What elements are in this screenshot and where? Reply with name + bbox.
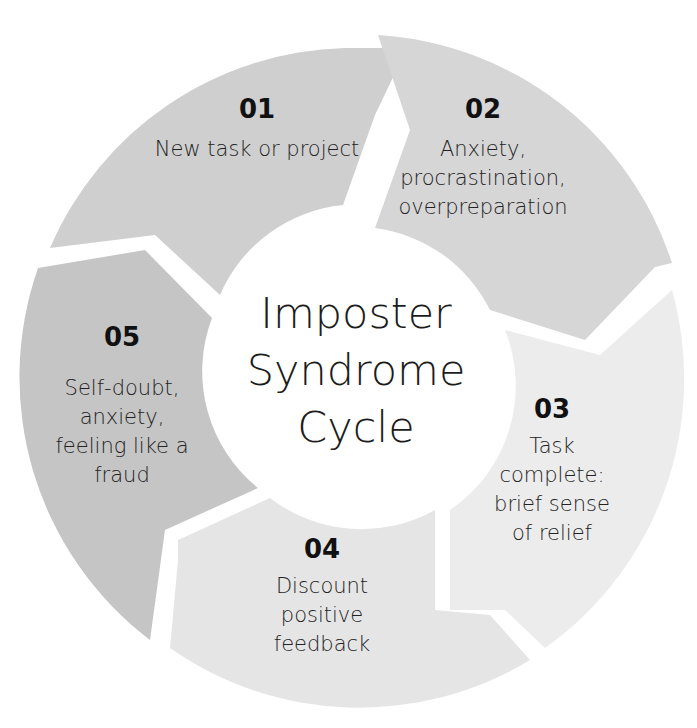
step-number: 02 <box>398 94 567 124</box>
step-01: 01 New task or project <box>155 94 359 164</box>
step-05: 05 Self-doubt, anxiety, feeling like a f… <box>55 322 188 490</box>
step-04: 04 Discount positive feedback <box>274 534 370 659</box>
step-number: 04 <box>274 534 370 564</box>
step-02: 02 Anxiety, procrastination, overprepara… <box>398 94 567 222</box>
step-text: Discount positive feedback <box>274 572 370 659</box>
center-title: Imposter Syndrome Cycle <box>247 285 466 456</box>
step-text: Anxiety, procrastination, overpreparatio… <box>398 135 567 222</box>
step-text: Task complete: brief sense of relief <box>494 432 610 548</box>
step-03: 03 Task complete: brief sense of relief <box>494 394 610 548</box>
step-text: Self-doubt, anxiety, feeling like a frau… <box>55 374 188 490</box>
step-number: 01 <box>155 94 359 124</box>
step-text: New task or project <box>155 135 359 164</box>
step-number: 05 <box>55 322 188 352</box>
step-number: 03 <box>494 394 610 424</box>
